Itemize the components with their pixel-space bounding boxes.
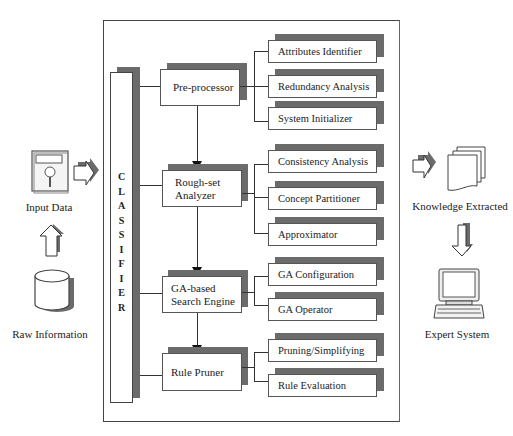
connector bbox=[254, 121, 268, 122]
sub-attributes-identifier: Attributes Identifier bbox=[268, 40, 377, 63]
connector bbox=[140, 185, 163, 186]
arrow-right-icon bbox=[410, 150, 440, 180]
connector bbox=[254, 86, 268, 87]
connector bbox=[254, 164, 268, 165]
flow-line bbox=[197, 207, 198, 270]
document-stack-icon bbox=[445, 146, 491, 196]
sub-system-initializer: System Initializer bbox=[268, 107, 377, 130]
connector bbox=[254, 51, 268, 52]
sub-rule-evaluation: Rule Evaluation bbox=[268, 374, 377, 397]
sub-ga-operator: GA Operator bbox=[268, 298, 377, 321]
connector bbox=[254, 352, 268, 353]
expert-system-label: Expert System bbox=[417, 328, 497, 340]
sub-redundancy-analysis: Redundancy Analysis bbox=[268, 75, 377, 98]
connector bbox=[240, 86, 255, 87]
flow-line bbox=[197, 313, 198, 348]
arrow-right-icon bbox=[72, 158, 102, 186]
connector bbox=[254, 305, 268, 306]
input-data-label: Input Data bbox=[14, 201, 84, 213]
sub-approximator: Approximator bbox=[268, 223, 377, 246]
connector bbox=[254, 233, 268, 234]
connector bbox=[140, 86, 161, 87]
sub-ga-configuration: GA Configuration bbox=[268, 263, 377, 286]
stage-pre-processor: Pre-processor bbox=[160, 69, 240, 106]
stage-ga-search-engine: GA-based Search Engine bbox=[162, 276, 242, 313]
sub-consistency-analysis: Consistency Analysis bbox=[268, 150, 377, 173]
sub-concept-partitioner: Concept Partitioner bbox=[268, 187, 377, 210]
connector bbox=[254, 197, 268, 198]
sub-pruning-simplifying: Pruning/Simplifying bbox=[268, 339, 377, 362]
stage-rough-set-analyzer: Rough-set Analyzer bbox=[162, 170, 242, 207]
database-cylinder-icon bbox=[32, 268, 82, 318]
arrow-down-icon bbox=[450, 222, 480, 258]
floppy-disk-icon bbox=[31, 150, 71, 194]
connector bbox=[140, 375, 163, 376]
connector bbox=[140, 293, 163, 294]
classifier-label: C L A S S I F I E R bbox=[110, 170, 133, 315]
knowledge-extracted-label: Knowledge Extracted bbox=[410, 200, 510, 212]
computer-terminal-icon bbox=[432, 268, 486, 320]
connector bbox=[254, 381, 268, 382]
flow-line bbox=[197, 106, 198, 164]
connector bbox=[254, 276, 268, 277]
raw-information-label: Raw Information bbox=[5, 328, 95, 340]
connector bbox=[254, 352, 255, 382]
connector bbox=[254, 164, 255, 233]
arrow-up-icon bbox=[38, 222, 68, 258]
stage-rule-pruner: Rule Pruner bbox=[162, 353, 242, 391]
connector bbox=[254, 276, 255, 306]
